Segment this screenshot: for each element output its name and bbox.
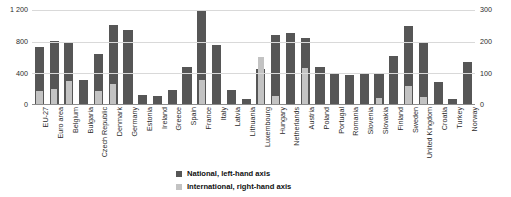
legend-item-national: National, left-hand axis xyxy=(176,167,376,180)
legend-label-international: International, right-hand axis xyxy=(187,183,291,191)
x-axis-label-text: Romania xyxy=(352,107,359,136)
x-axis-label: EU-27 xyxy=(42,87,49,107)
x-axis-label-text: Norway xyxy=(471,107,478,131)
x-axis-label-text: Luxembourg xyxy=(264,107,271,147)
x-axis-label-text: Latvia xyxy=(234,107,241,126)
x-axis-label: Belgium xyxy=(72,81,79,107)
x-axis-label-text: EU-27 xyxy=(42,107,49,127)
x-axis-label-text: Portugal xyxy=(338,107,345,134)
x-axis-label: Norway xyxy=(471,83,478,107)
x-axis-label: Estonia xyxy=(146,83,153,107)
gridline xyxy=(32,10,475,11)
x-axis-labels: EU-27Euro areaBelgiumBulgariaCzech Repub… xyxy=(32,107,475,165)
x-axis-label: Spain xyxy=(190,89,197,107)
legend: National, left-hand axis International, … xyxy=(176,167,376,193)
x-axis-label-text: Croatia xyxy=(441,107,448,130)
x-axis-label: Slovakia xyxy=(382,80,389,107)
x-axis-label-text: Italy xyxy=(220,107,227,120)
x-axis-label: Sweden xyxy=(412,81,419,107)
x-axis-label-text: Denmark xyxy=(116,107,123,136)
gridline xyxy=(32,73,475,74)
x-axis-label: Croatia xyxy=(441,84,448,107)
x-axis-label-text: Austria xyxy=(308,107,315,129)
legend-item-international: International, right-hand axis xyxy=(176,180,376,193)
x-axis-label: Netherlands xyxy=(293,68,300,107)
x-axis-label-text: Belgium xyxy=(72,107,79,133)
x-axis-label: United Kingdom xyxy=(426,56,433,107)
x-axis-label-text: United Kingdom xyxy=(426,107,433,158)
x-axis-label: Ireland xyxy=(161,85,168,107)
x-axis-label-text: Lithuania xyxy=(249,107,256,136)
x-axis-label: Slovenia xyxy=(367,79,374,107)
left-axis-tick: 0 xyxy=(0,101,28,108)
x-axis-label: Denmark xyxy=(116,78,123,107)
bar-chart: EU-27Euro areaBelgiumBulgariaCzech Repub… xyxy=(0,0,511,197)
x-axis-label-text: Slovakia xyxy=(382,107,389,134)
x-axis-label-text: Bulgaria xyxy=(87,107,94,133)
x-axis-label: Austria xyxy=(308,85,315,107)
x-axis-label-text: Turkey xyxy=(456,107,463,129)
x-axis-label-text: Czech Republic xyxy=(101,107,108,157)
left-axis-tick: 400 xyxy=(0,70,28,77)
x-axis-label-text: Poland xyxy=(323,107,330,129)
x-axis-label: Germany xyxy=(131,77,138,107)
x-axis-label: France xyxy=(205,85,212,107)
right-axis-tick: 200 xyxy=(480,38,511,45)
x-axis-label-text: Greece xyxy=(175,107,182,131)
x-axis-label: Italy xyxy=(220,94,227,107)
x-axis-label-text: Slovenia xyxy=(367,107,374,135)
x-axis-label-text: Finland xyxy=(397,107,404,131)
left-axis-tick: 1 200 xyxy=(0,6,28,13)
bar-international xyxy=(405,86,412,105)
left-axis-tick: 800 xyxy=(0,38,28,45)
legend-swatch-national-icon xyxy=(176,171,182,177)
x-axis-label-text: Estonia xyxy=(146,107,153,131)
x-axis-label-text: Sweden xyxy=(412,107,419,133)
x-axis-label: Euro area xyxy=(57,75,64,107)
x-axis-label: Poland xyxy=(323,85,330,107)
x-axis-label: Lithuania xyxy=(249,78,256,107)
right-axis-tick: 100 xyxy=(480,70,511,77)
x-axis-label-text: Spain xyxy=(190,107,197,125)
x-axis-label: Hungary xyxy=(279,80,286,107)
x-axis-label-text: Germany xyxy=(131,107,138,137)
x-axis-label: Finland xyxy=(397,83,404,107)
right-axis-tick: 0 xyxy=(480,101,511,108)
x-axis-label: Portugal xyxy=(338,80,345,107)
x-axis-label: Latvia xyxy=(234,88,241,107)
right-axis-tick: 300 xyxy=(480,6,511,13)
x-axis-label: Greece xyxy=(175,83,182,107)
x-axis-label: Czech Republic xyxy=(101,57,108,107)
bar-slot xyxy=(212,10,221,105)
x-axis-label: Turkey xyxy=(456,85,463,107)
x-axis-label-text: Hungary xyxy=(279,107,286,134)
gridline xyxy=(32,42,475,43)
x-axis-label: Romania xyxy=(352,78,359,107)
x-axis-label-text: France xyxy=(205,107,212,129)
legend-label-national: National, left-hand axis xyxy=(187,170,270,178)
x-axis-label: Luxembourg xyxy=(264,67,271,107)
x-axis-label-text: Ireland xyxy=(161,107,168,129)
x-axis-label-text: Netherlands xyxy=(293,107,300,146)
x-axis-label: Bulgaria xyxy=(87,81,94,107)
legend-swatch-international-icon xyxy=(176,184,182,190)
x-axis-label-text: Euro area xyxy=(57,107,64,139)
